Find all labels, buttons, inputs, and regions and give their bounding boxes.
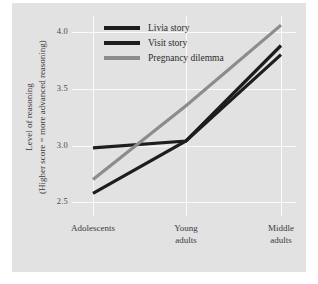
x-axis-tick-labels: AdolescentsYoungadultsMiddleadults bbox=[72, 222, 296, 262]
y-axis-tick-label: 3.5 bbox=[42, 83, 68, 93]
y-axis-tick-label: 2.5 bbox=[42, 196, 68, 206]
legend-swatch-icon bbox=[104, 26, 140, 30]
x-axis-tick-label-line: Adolescents bbox=[71, 222, 115, 234]
legend-swatch-icon bbox=[104, 41, 140, 45]
x-axis-tick-label-line: Young bbox=[174, 222, 198, 234]
legend-item: Livia story bbox=[104, 20, 224, 35]
y-axis-tick-labels: 4.03.53.02.5 bbox=[40, 16, 68, 216]
chart-figure: Level of reasoning (Higher score = more … bbox=[0, 0, 318, 284]
chart-legend: Livia storyVisit storyPregnancy dilemma bbox=[104, 20, 224, 65]
y-axis-tick-label: 4.0 bbox=[42, 26, 68, 36]
legend-item-label: Livia story bbox=[148, 23, 189, 33]
x-axis-tick-label-line: adults bbox=[174, 234, 198, 246]
x-axis-tick-label-line: adults bbox=[268, 234, 294, 246]
x-axis-tick-label: Youngadults bbox=[174, 222, 198, 246]
y-axis-tick-label: 3.0 bbox=[42, 140, 68, 150]
legend-item: Visit story bbox=[104, 35, 224, 50]
legend-item-label: Visit story bbox=[148, 38, 187, 48]
x-axis-tick-label: Adolescents bbox=[71, 222, 115, 234]
legend-item: Pregnancy dilemma bbox=[104, 50, 224, 65]
x-axis-tick-label: Middleadults bbox=[268, 222, 294, 246]
legend-swatch-icon bbox=[104, 56, 140, 60]
x-axis-tick-label-line: Middle bbox=[268, 222, 294, 234]
y-axis-title-line1: Level of reasoning bbox=[23, 19, 36, 215]
legend-item-label: Pregnancy dilemma bbox=[148, 53, 224, 63]
